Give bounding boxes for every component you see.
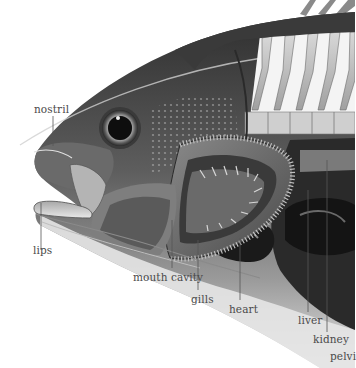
label-pelvic: pelvi	[330, 350, 356, 362]
label-mouth-cavity: mouth cavity	[133, 271, 203, 283]
label-nostril: nostril	[34, 103, 69, 115]
label-lips: lips	[33, 244, 52, 256]
label-gills: gills	[191, 293, 214, 305]
label-kidney: kidney	[313, 333, 349, 345]
eye	[99, 107, 141, 149]
label-heart: heart	[229, 303, 258, 315]
label-liver: liver	[298, 314, 322, 326]
skeleton	[245, 30, 355, 134]
